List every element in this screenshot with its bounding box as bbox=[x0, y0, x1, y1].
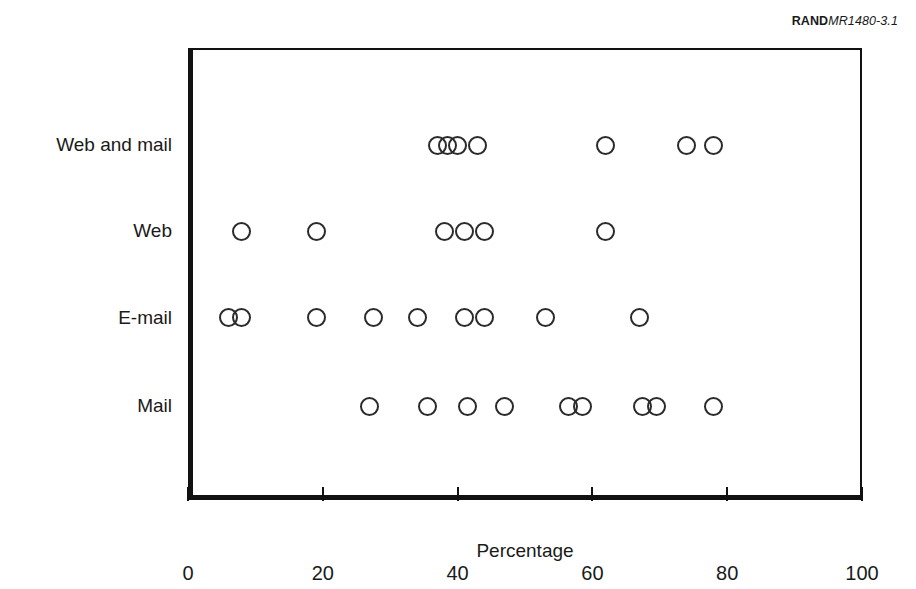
data-point bbox=[307, 308, 326, 327]
x-tick-mark bbox=[726, 487, 728, 501]
x-tick-mark bbox=[591, 487, 593, 501]
x-tick-mark bbox=[861, 487, 863, 501]
data-point bbox=[704, 136, 723, 155]
data-point bbox=[468, 136, 487, 155]
category-label: Web bbox=[133, 220, 172, 242]
x-tick-mark bbox=[187, 487, 189, 501]
x-tick-label: 40 bbox=[446, 562, 468, 585]
plot-frame bbox=[188, 48, 862, 500]
data-point bbox=[596, 136, 615, 155]
x-tick-label: 80 bbox=[716, 562, 738, 585]
source-brand: RAND bbox=[792, 14, 829, 28]
category-label: Web and mail bbox=[56, 134, 172, 156]
data-point bbox=[435, 222, 454, 241]
category-label: Mail bbox=[137, 395, 172, 417]
data-point bbox=[573, 397, 592, 416]
data-point bbox=[677, 136, 696, 155]
source-document-number: MR1480-3.1 bbox=[828, 14, 898, 28]
data-point bbox=[408, 308, 427, 327]
x-axis-title: Percentage bbox=[188, 540, 862, 562]
dot-plot-chart: Web and mailWebE-mailMail 020406080100 bbox=[188, 48, 862, 500]
data-point bbox=[418, 397, 437, 416]
x-tick-label: 100 bbox=[845, 562, 878, 585]
x-tick-label: 60 bbox=[581, 562, 603, 585]
x-tick-label: 0 bbox=[182, 562, 193, 585]
data-point bbox=[596, 222, 615, 241]
x-tick-mark bbox=[457, 487, 459, 501]
data-point bbox=[455, 222, 474, 241]
data-point bbox=[475, 222, 494, 241]
data-point bbox=[232, 222, 251, 241]
x-tick-mark bbox=[322, 487, 324, 501]
source-identifier: RANDMR1480-3.1 bbox=[792, 14, 898, 28]
data-point bbox=[536, 308, 555, 327]
data-point bbox=[647, 397, 666, 416]
data-point bbox=[458, 397, 477, 416]
category-label: E-mail bbox=[118, 307, 172, 329]
x-tick-label: 20 bbox=[312, 562, 334, 585]
data-point bbox=[704, 397, 723, 416]
data-point bbox=[448, 136, 467, 155]
data-point bbox=[307, 222, 326, 241]
